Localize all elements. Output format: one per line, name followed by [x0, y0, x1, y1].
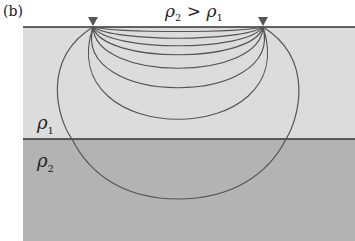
rel-right-sub: 1: [216, 12, 222, 23]
rho2-symbol: ρ: [37, 150, 48, 171]
rho1-sub: 1: [48, 125, 54, 136]
rel-op: >: [181, 1, 206, 21]
electrode-b-icon: [258, 17, 268, 26]
resistivity-relation: ρ2 > ρ1: [165, 1, 223, 23]
rel-right: ρ: [206, 1, 216, 21]
rho1-label: ρ1: [37, 112, 54, 136]
panel-label: (b): [3, 3, 23, 19]
rho2-sub: 2: [48, 163, 54, 174]
rel-left: ρ: [165, 1, 175, 21]
lower-layer: [23, 139, 355, 241]
rho1-symbol: ρ: [37, 112, 48, 133]
rho2-label: ρ2: [37, 150, 54, 174]
electrode-a-icon: [88, 17, 98, 26]
